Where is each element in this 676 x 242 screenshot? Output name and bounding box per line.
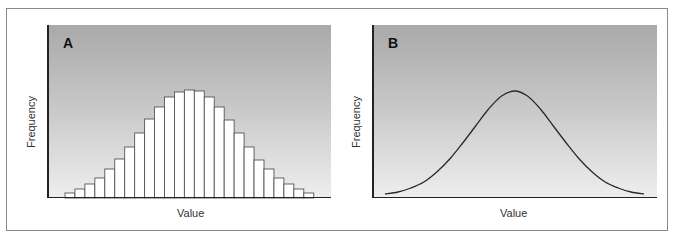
histogram-bar [214,107,224,198]
histogram-bar [184,90,194,198]
histogram-bar [224,120,234,198]
histogram-bar [264,169,274,198]
histogram-bar [274,178,284,198]
bell-curve-line [385,91,644,194]
panel-b-x-axis [372,197,657,199]
panel-b-y-axis-label: Frequency [350,92,362,152]
histogram-bar [125,147,135,198]
histogram-bar [155,107,165,198]
normal-curve [372,25,657,198]
panel-a-plot-area [47,25,331,198]
histogram-bar [145,119,155,198]
panel-b: B Frequency Value [338,0,676,242]
panel-a-x-axis-label: Value [177,207,204,219]
histogram-bars [47,25,331,198]
panel-a-label: A [63,35,73,51]
histogram-bar [165,97,175,198]
histogram-bar [244,147,254,198]
panel-a-x-axis [47,197,331,199]
histogram-bar [254,160,264,198]
histogram-bar [204,97,214,198]
histogram-bar [135,133,145,198]
panel-a: A Frequency Value [0,0,338,242]
panel-b-plot-area [372,25,657,198]
histogram-bar [105,169,115,198]
panel-a-y-axis-label: Frequency [25,92,37,152]
histogram-bar [234,133,244,198]
panel-b-x-axis-label: Value [500,207,527,219]
histogram-bar [95,178,105,198]
histogram-bar [174,92,184,198]
panel-a-y-axis [47,25,49,198]
histogram-bar [115,159,125,198]
histogram-bar [194,91,204,198]
panel-b-y-axis [372,25,374,198]
panel-b-label: B [388,35,398,51]
